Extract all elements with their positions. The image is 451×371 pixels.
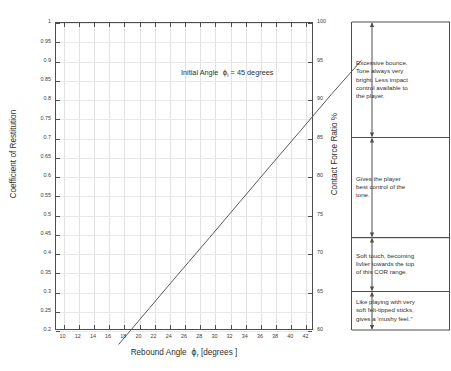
axis-tick — [56, 293, 60, 294]
axis-tick — [56, 62, 60, 63]
bracket-note-2: Gives the player best control of the ton… — [356, 175, 448, 200]
y2-tick-label: 65 — [317, 289, 337, 294]
y2-tick-label: 90 — [317, 96, 337, 101]
y-tick-label: 0.35 — [23, 270, 51, 275]
axis-tick — [231, 23, 232, 27]
y2-axis-title: Contact Force Ratio % — [331, 84, 339, 224]
axis-tick — [56, 42, 60, 43]
y2-tick-label: 95 — [317, 58, 337, 63]
axis-tick — [140, 23, 141, 27]
y-tick-label: 0.4 — [23, 250, 51, 255]
bracket-arrow-head-top — [370, 238, 374, 243]
y2-tick-label: 60 — [317, 327, 337, 332]
axis-tick — [56, 119, 60, 120]
axis-tick — [56, 312, 60, 313]
y-tick-label: 0.65 — [23, 154, 51, 159]
y-axis-title: Coefficient of Restitution — [10, 84, 18, 224]
axis-tick — [124, 23, 125, 27]
bracket-arrow-head-top — [370, 138, 374, 143]
axis-tick — [94, 23, 95, 27]
phi-subscript-rebound: r — [197, 352, 199, 358]
y2-tick-label: 80 — [317, 173, 337, 178]
axis-tick — [109, 325, 110, 329]
y-tick-label: 0.9 — [23, 58, 51, 63]
x-axis-title: Rebound Angle ϕr [degrees ] — [55, 348, 313, 358]
y-tick-label: 0.5 — [23, 212, 51, 217]
axis-tick — [215, 23, 216, 27]
axis-tick — [276, 23, 277, 27]
bracket-arrow-head-bottom — [370, 287, 374, 292]
axis-tick — [56, 158, 60, 159]
xlabel-prefix: Rebound Angle — [131, 348, 187, 357]
axis-tick — [200, 23, 201, 27]
axis-tick — [291, 23, 292, 27]
annotation-suffix: = 45 degrees — [231, 68, 274, 77]
y-tick-label: 0.95 — [23, 39, 51, 44]
y-tick-label: 0.55 — [23, 193, 51, 198]
axis-tick — [308, 23, 312, 24]
axis-tick — [306, 23, 307, 27]
y-tick-label: 0.6 — [23, 173, 51, 178]
axis-tick — [170, 23, 171, 27]
axis-tick — [94, 325, 95, 329]
axis-tick — [56, 23, 60, 24]
axis-tick — [56, 177, 60, 178]
bracket-arrow-head-top — [370, 292, 374, 297]
y2-tick-label: 75 — [317, 212, 337, 217]
axis-tick — [56, 235, 60, 236]
axis-tick — [56, 216, 60, 217]
axis-tick — [155, 23, 156, 27]
axis-tick — [56, 139, 60, 140]
axis-tick — [56, 81, 60, 82]
bracket-note-3: Soft touch, becoming livlier towards the… — [356, 252, 448, 277]
axis-tick — [56, 100, 60, 101]
y-tick-label: 0.85 — [23, 77, 51, 82]
y-tick-label: 0.2 — [23, 327, 51, 332]
axis-tick — [56, 254, 60, 255]
plot-area: Initial Angle ϕi = 45 degrees — [55, 22, 313, 330]
bracket-arrow-head-bottom — [370, 325, 374, 330]
axis-tick — [109, 23, 110, 27]
axis-tick — [246, 23, 247, 27]
xlabel-suffix: [degrees ] — [201, 348, 237, 357]
y-tick-label: 1 — [23, 19, 51, 24]
axis-tick — [64, 23, 65, 27]
axis-tick — [79, 23, 80, 27]
axis-tick — [56, 273, 60, 274]
y2-tick-label: 70 — [317, 250, 337, 255]
initial-angle-annotation: Initial Angle ϕi = 45 degrees — [181, 69, 273, 78]
axis-tick — [56, 196, 60, 197]
y-tick-label: 0.3 — [23, 289, 51, 294]
y-tick-label: 0.7 — [23, 135, 51, 140]
figure-canvas: Initial Angle ϕi = 45 degrees Coefficien… — [0, 0, 451, 371]
bracket-note-4: Like playing with very soft felt-tipped … — [356, 298, 448, 323]
bracket-arrow-head-top — [370, 23, 374, 28]
axis-tick — [56, 331, 60, 332]
x-tick-label: 42 — [295, 334, 315, 339]
y2-tick-label: 85 — [317, 135, 337, 140]
y2-tick-label: 100 — [317, 19, 337, 24]
bracket-note-1: Excessive bounce. Tone always very brigh… — [356, 59, 448, 100]
axis-tick — [64, 325, 65, 329]
y-tick-label: 0.8 — [23, 96, 51, 101]
axis-tick — [79, 325, 80, 329]
axis-tick — [185, 23, 186, 27]
y-tick-label: 0.75 — [23, 116, 51, 121]
phi-subscript-initial: i — [227, 72, 228, 78]
bracket-arrow-head-bottom — [370, 233, 374, 238]
bracket-arrow-head-bottom — [370, 133, 374, 138]
annotation-prefix: Initial Angle — [181, 68, 218, 77]
axis-tick — [261, 23, 262, 27]
y-tick-label: 0.25 — [23, 308, 51, 313]
y-tick-label: 0.45 — [23, 231, 51, 236]
